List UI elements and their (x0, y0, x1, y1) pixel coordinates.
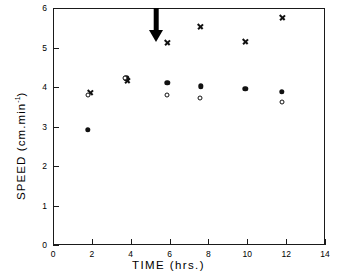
y-tick-label: 4 (25, 83, 47, 92)
x-tick-mark (92, 239, 93, 245)
x-tick-label: 8 (196, 250, 220, 259)
x-tick-label: 0 (41, 250, 65, 259)
x-tick-label: 10 (235, 250, 259, 259)
y-tick-label: 2 (25, 162, 47, 171)
y-tick-mark (53, 206, 59, 207)
y-axis-title-exponent: -1 (14, 96, 21, 102)
x-axis-title: TIME (hrs.) (0, 259, 337, 271)
data-point-open-circle (280, 100, 285, 105)
plot-frame (53, 8, 325, 245)
data-point-open-circle (164, 92, 169, 97)
y-tick-mark (53, 87, 59, 88)
y-tick-label: 5 (25, 44, 47, 53)
x-tick-mark (53, 239, 54, 245)
y-tick-mark (53, 48, 59, 49)
data-point-open-circle (122, 76, 127, 81)
x-tick-mark (131, 239, 132, 245)
x-tick-mark (325, 239, 326, 245)
x-tick-mark (247, 239, 248, 245)
x-tick-label: 4 (119, 250, 143, 259)
y-tick-label: 1 (25, 202, 47, 211)
data-point-open-circle (85, 92, 90, 97)
y-tick-label: 3 (25, 123, 47, 132)
data-point-cross (164, 39, 171, 46)
x-tick-label: 14 (313, 250, 337, 259)
arrow-shaft (154, 8, 159, 32)
x-tick-label: 2 (80, 250, 104, 259)
y-tick-mark (53, 127, 59, 128)
y-axis-title-close: ) (15, 91, 27, 96)
x-tick-label: 12 (274, 250, 298, 259)
arrow-head (149, 30, 163, 42)
x-tick-mark (208, 239, 209, 245)
y-axis-title-text: SPEED (cm.min (15, 103, 27, 200)
data-point-cross (242, 38, 249, 45)
data-point-open-circle (198, 96, 203, 101)
y-tick-label: 6 (25, 4, 47, 13)
data-point-cross (279, 14, 286, 21)
x-tick-mark (170, 239, 171, 245)
down-arrow-icon (148, 8, 164, 44)
y-tick-label: 0 (25, 241, 47, 250)
y-tick-mark (53, 166, 59, 167)
x-tick-label: 6 (158, 250, 182, 259)
x-tick-mark (286, 239, 287, 245)
y-axis-title: SPEED (cm.min-1) (14, 91, 27, 200)
y-tick-mark (53, 245, 59, 246)
data-point-cross (197, 23, 204, 30)
y-tick-mark (53, 8, 59, 9)
scatter-chart-figure: 0123456 02468101214 SPEED (cm.min-1) TIM… (0, 0, 337, 280)
